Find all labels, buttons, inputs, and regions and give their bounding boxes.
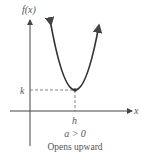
parabola-diagram: f(x) x k h a > 0 Opens upward [0,0,141,155]
parabola-curve [51,25,99,90]
vertex-y-label: k [20,85,25,96]
x-axis-label: x [133,105,139,116]
vertex-x-label: h [72,115,77,126]
y-axis-label: f(x) [22,4,37,16]
condition-text: a > 0 [64,128,86,139]
caption-text: Opens upward [47,142,102,152]
vertex-point [73,88,77,92]
